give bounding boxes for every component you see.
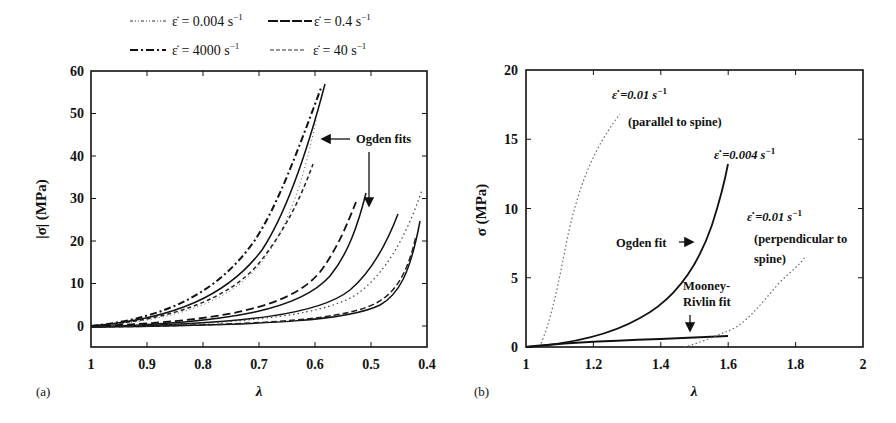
svg-text:0.7: 0.7 — [250, 357, 268, 372]
svg-text:2: 2 — [860, 357, 867, 372]
svg-text:0.8: 0.8 — [194, 357, 212, 372]
ogden-fit-group1 — [91, 84, 325, 326]
svg-text:Ogden fits: Ogden fits — [356, 132, 411, 146]
annotation-mooney-2: Rivlin fit — [683, 295, 731, 309]
svg-text:ε̇ = 0.004 s−1: ε̇ = 0.004 s−1 — [172, 12, 243, 29]
annotation-parallel-desc: (parallel to spine) — [628, 115, 722, 129]
annotation-0.004-rate: ε̇ =0.004 s−1 — [714, 146, 776, 162]
legend-entry-4000: ε̇ = 4000 s−1 — [130, 41, 239, 58]
mooney-rivlin-fit — [526, 336, 728, 347]
panel-a: 1 0.9 0.8 0.7 0.6 0.5 0.4 0 10 20 30 40 … — [33, 64, 436, 399]
series-40-group1 — [91, 164, 313, 326]
y-tick-labels-a: 0 10 20 30 40 50 60 — [70, 64, 84, 334]
annotations-b: ε̇ =0.01 s−1 (parallel to spine) ε̇ =0.0… — [612, 86, 847, 330]
y-ticks-b — [526, 139, 863, 278]
annotation-parallel-rate: ε̇ =0.01 s−1 — [612, 86, 667, 102]
panel-b: 1 1.2 1.4 1.6 1.8 2 0 5 10 15 20 σ (MPa)… — [473, 63, 867, 399]
svg-text:0.6: 0.6 — [306, 357, 324, 372]
svg-text:60: 60 — [70, 64, 84, 79]
svg-text:30: 30 — [70, 191, 84, 206]
svg-text:1.2: 1.2 — [585, 357, 603, 372]
series-data-group4 — [91, 236, 416, 327]
svg-text:1.6: 1.6 — [719, 357, 737, 372]
svg-text:15: 15 — [504, 132, 518, 147]
annotation-perp-rate: ε̇ =0.01 s−1 — [747, 208, 802, 224]
legend-entry-0.4: ε̇ = 0.4 s−1 — [268, 12, 371, 29]
svg-text:ε̇ = 40 s−1: ε̇ = 40 s−1 — [313, 41, 366, 58]
svg-text:50: 50 — [70, 106, 84, 121]
y-axis-title-a: |σ| (MPa) — [33, 179, 50, 238]
svg-text:1.4: 1.4 — [652, 357, 670, 372]
y-axis-title-b: σ (MPa) — [473, 184, 490, 237]
annotation-perp-desc1: (perpendicular to — [754, 232, 847, 246]
series-0.004-group3 — [91, 190, 422, 327]
svg-text:0.4: 0.4 — [418, 357, 436, 372]
svg-text:1: 1 — [88, 357, 95, 372]
annotation-perp-desc2: spine) — [754, 252, 786, 266]
panel-label-a: (a) — [36, 384, 50, 399]
y-tick-labels-b: 0 5 10 15 20 — [504, 63, 518, 355]
svg-text:0: 0 — [511, 340, 518, 355]
ogden-fits-annotation: Ogden fits — [323, 132, 411, 205]
curves-a — [91, 84, 422, 327]
x-ticks-a — [147, 71, 371, 347]
svg-text:0: 0 — [77, 319, 84, 334]
svg-text:1: 1 — [523, 357, 530, 372]
ogden-fit-group2 — [91, 193, 366, 327]
annotation-mooney-1: Mooney- — [683, 279, 730, 293]
svg-text:20: 20 — [504, 63, 518, 78]
legend: ε̇ = 0.004 s−1 ε̇ = 0.4 s−1 ε̇ = 4000 s−… — [130, 12, 371, 58]
series-parallel-to-spine — [540, 114, 621, 347]
series-0.4-group2 — [91, 202, 356, 326]
figure-canvas: ε̇ = 0.004 s−1 ε̇ = 0.4 s−1 ε̇ = 4000 s−… — [0, 0, 896, 423]
x-tick-labels-a: 1 0.9 0.8 0.7 0.6 0.5 0.4 — [88, 357, 436, 372]
x-tick-labels-b: 1 1.2 1.4 1.6 1.8 2 — [523, 357, 867, 372]
svg-text:10: 10 — [70, 276, 84, 291]
svg-text:ε̇ = 0.4 s−1: ε̇ = 0.4 s−1 — [314, 12, 371, 29]
ogden-fit-0.004 — [526, 164, 728, 347]
svg-text:0.9: 0.9 — [138, 357, 156, 372]
annotation-ogden-fit: Ogden fit — [616, 236, 667, 250]
svg-text:5: 5 — [511, 271, 518, 286]
plot-frame-a — [91, 71, 427, 347]
svg-text:10: 10 — [504, 202, 518, 217]
series-4000-group1 — [91, 88, 321, 326]
x-axis-title-a: λ — [255, 383, 263, 399]
svg-text:1.8: 1.8 — [787, 357, 805, 372]
legend-entry-0.004: ε̇ = 0.004 s−1 — [130, 12, 243, 29]
svg-text:ε̇ = 4000 s−1: ε̇ = 4000 s−1 — [172, 41, 239, 58]
svg-text:40: 40 — [70, 149, 84, 164]
svg-text:0.5: 0.5 — [362, 357, 380, 372]
panel-label-b: (b) — [474, 384, 489, 399]
series-0.004-group1 — [91, 120, 316, 326]
svg-text:20: 20 — [70, 234, 84, 249]
x-axis-title-b: λ — [690, 383, 698, 399]
legend-entry-40: ε̇ = 40 s−1 — [270, 41, 366, 58]
